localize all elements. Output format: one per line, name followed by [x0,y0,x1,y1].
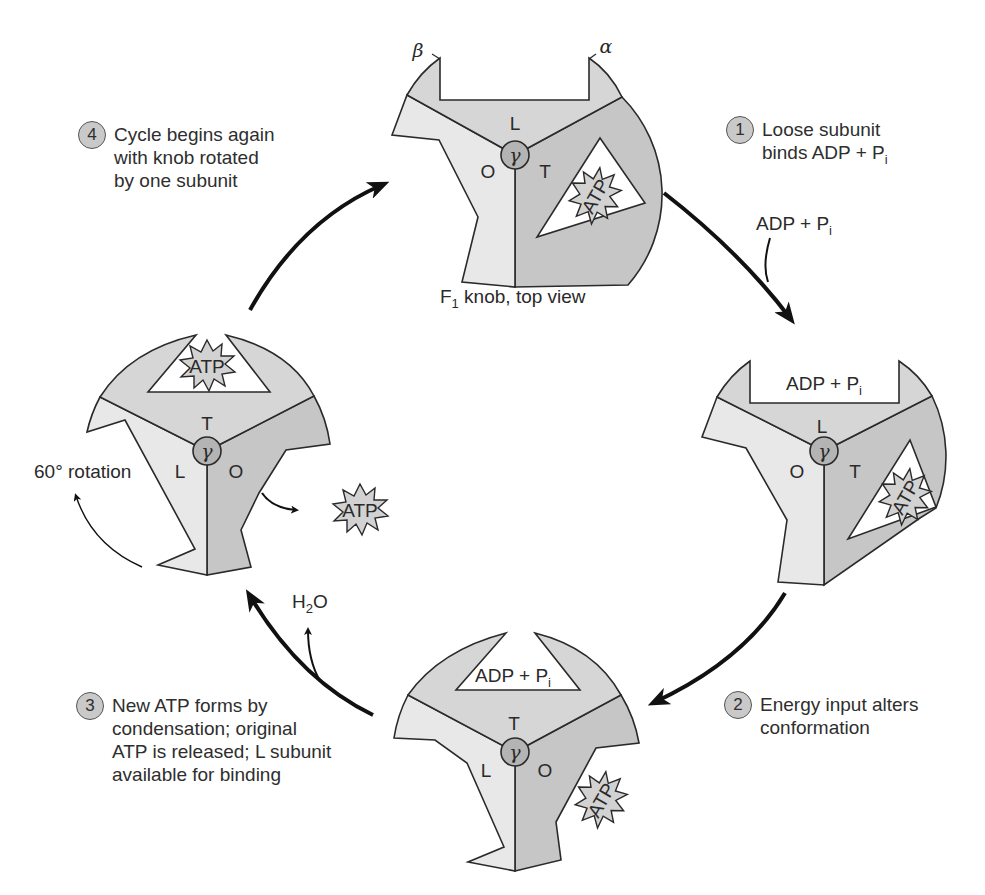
step-text: Energy input alters conformation [724,693,918,739]
step-badge: 4 [78,121,106,149]
cycle-arrow-4 [250,185,382,310]
step-text: New ATP forms by condensation; original … [76,694,331,786]
label-o: O [790,461,805,482]
gamma-label: γ [509,741,521,763]
binding-site-label: ADP + Pi [475,665,551,690]
knob-top: ATP γ L O T β α F1 knob, top view [392,35,662,311]
label-o: O [229,461,244,482]
released-atp-burst: ATP [333,484,388,535]
adp-input-arrow [765,238,770,282]
step-badge: 2 [724,691,752,719]
adp-input-label: ADP + Pi [756,213,832,238]
label-t: T [539,161,551,182]
knob-left: ATP γ T L O ATP 60° rotation [34,335,388,575]
step-4: 4 Cycle begins again with knob rotated b… [78,123,275,192]
label-o: O [538,760,553,781]
gamma-label: γ [818,440,830,462]
cycle-arrow-1 [664,193,790,318]
binding-site-label: ADP + Pi [786,373,862,398]
knob-right: ADP + Pi ATP γ L O T [702,361,946,585]
water-label: H2O [292,591,328,616]
label-l: L [817,416,828,437]
label-o: O [481,161,496,182]
step-2: 2 Energy input alters conformation [724,693,918,739]
label-l: L [175,461,186,482]
knob-caption: F1 knob, top view [440,286,586,311]
step-badge: 3 [76,692,104,720]
knob-bottom: ADP + Pi γ T L O ATP [394,633,639,871]
gamma-label: γ [201,440,213,462]
atp-label: ATP [189,356,225,377]
release-arrow [262,493,296,510]
step-badge: 1 [726,116,754,144]
label-t: T [201,413,213,434]
atp-burst: ATP [180,340,235,391]
label-t: T [508,713,520,734]
label-t: T [849,461,861,482]
step-3: 3 New ATP forms by condensation; origina… [76,694,331,786]
step-1: 1 Loose subunit binds ADP + Pi [726,118,888,171]
label-l: L [481,760,492,781]
rotation-label: 60° rotation [34,461,131,482]
atp-label: ATP [342,500,378,521]
cycle-arrow-2 [655,593,785,702]
rotation-arrow [76,496,142,567]
alpha-label: α [600,35,613,57]
label-l: L [510,113,521,134]
gamma-label: γ [509,144,521,166]
step-text: Cycle begins again with knob rotated by … [78,123,275,192]
beta-label: β [412,39,424,61]
